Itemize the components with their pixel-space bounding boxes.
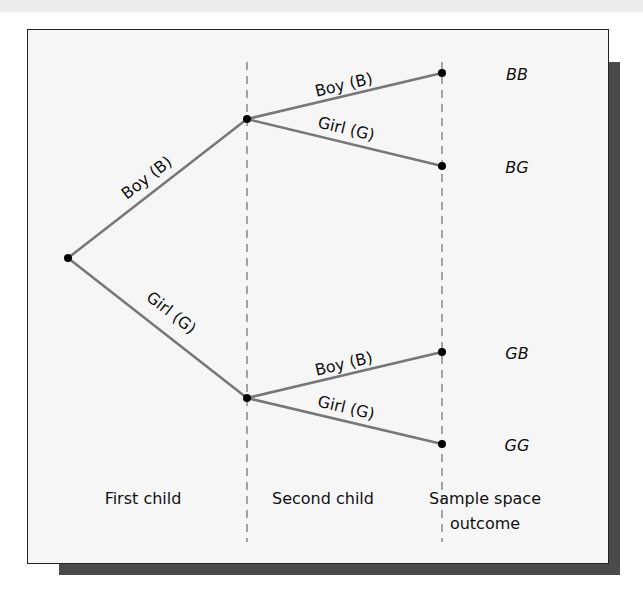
node-girl: [243, 394, 251, 402]
node-bg: [438, 162, 446, 170]
outcome-bb: BB: [506, 65, 528, 84]
stage-sample-space: Sample space: [429, 489, 541, 508]
label-bg: Girl (G): [316, 113, 377, 145]
node-boy: [243, 115, 251, 123]
node-gb: [438, 348, 446, 356]
node-gg: [438, 440, 446, 448]
branch-first-girl: [68, 258, 247, 398]
stage-second-child: Second child: [272, 489, 374, 508]
node-root: [64, 254, 72, 262]
stage-outcome: outcome: [450, 514, 520, 533]
outcome-gg: GG: [505, 436, 530, 455]
node-bb: [438, 69, 446, 77]
tree-diagram: Boy (B) Girl (G) Boy (B) Girl (G) Boy (B…: [0, 0, 643, 597]
label-first-girl: Girl (G): [143, 287, 200, 338]
outcome-gb: GB: [505, 344, 528, 363]
outcome-bg: BG: [505, 158, 528, 177]
label-gg: Girl (G): [316, 392, 377, 424]
stage-first-child: First child: [105, 489, 182, 508]
branch-first-boy: [68, 119, 247, 258]
